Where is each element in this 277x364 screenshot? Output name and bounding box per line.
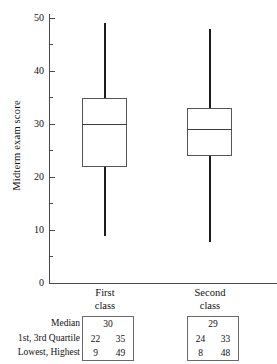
row-label-quartiles: 1st, 3rd Quartile (0, 331, 80, 346)
x-axis-label-first-class: First class (60, 287, 150, 312)
summary-first-lowest: 9 (89, 346, 103, 361)
summary-second-median-row: 29 (188, 317, 238, 332)
summary-second-q1: 24 (194, 332, 208, 347)
x-label-first-line2: class (60, 300, 150, 313)
boxplot-figure: Midterm exam score 50 40 30 20 10 0 (0, 0, 277, 364)
summary-second-q3: 33 (219, 332, 233, 347)
x-axis-label-second-class: Second class (165, 287, 255, 312)
summary-first-highest: 49 (114, 346, 128, 361)
y-tick-5 (50, 256, 53, 257)
median-line-first (82, 124, 127, 125)
summary-first-quartiles-row: 22 35 (83, 332, 133, 347)
summary-first-median-row: 30 (83, 317, 133, 332)
x-label-second-line1: Second (165, 287, 255, 300)
row-label-median: Median (0, 316, 80, 331)
y-tick-label-40: 40 (20, 66, 44, 76)
summary-first-extremes-row: 9 49 (83, 346, 133, 361)
median-line-second (187, 129, 232, 130)
y-tick-label-30: 30 (20, 119, 44, 129)
plot-area: Midterm exam score 50 40 30 20 10 0 (0, 0, 277, 300)
y-tick-label-20: 20 (20, 172, 44, 182)
y-tick-25 (50, 150, 53, 151)
box-first (82, 98, 127, 167)
y-tick-label-50: 50 (20, 13, 44, 23)
summary-first-q1: 22 (89, 332, 103, 347)
boxplot-second-class[interactable] (165, 0, 255, 300)
summary-table: Median 1st, 3rd Quartile Lowest, Highest… (0, 316, 277, 364)
box-second (187, 108, 232, 156)
y-tick-50 (50, 18, 55, 19)
y-tick-10 (50, 230, 55, 231)
y-axis-line (49, 14, 50, 284)
y-tick-0 (50, 283, 55, 284)
y-tick-label-0: 0 (20, 278, 44, 288)
summary-first-median: 30 (101, 317, 115, 332)
y-tick-35 (50, 97, 53, 98)
summary-second-quartiles-row: 24 33 (188, 332, 238, 347)
y-tick-15 (50, 203, 53, 204)
summary-second-highest: 48 (219, 346, 233, 361)
x-label-second-line2: class (165, 300, 255, 313)
y-tick-20 (50, 177, 55, 178)
row-label-extremes: Lowest, Highest (0, 345, 80, 360)
y-tick-45 (50, 44, 53, 45)
y-tick-30 (50, 124, 55, 125)
y-tick-label-10: 10 (20, 225, 44, 235)
summary-box-first-class: 30 22 35 9 49 (82, 316, 134, 361)
x-label-first-line1: First (60, 287, 150, 300)
y-tick-40 (50, 71, 55, 72)
summary-second-lowest: 8 (194, 346, 208, 361)
summary-row-labels: Median 1st, 3rd Quartile Lowest, Highest (0, 316, 80, 360)
y-axis-title: Midterm exam score (11, 66, 22, 226)
summary-first-q3: 35 (114, 332, 128, 347)
summary-box-second-class: 29 24 33 8 48 (187, 316, 239, 361)
summary-second-median: 29 (206, 317, 220, 332)
summary-second-extremes-row: 8 48 (188, 346, 238, 361)
boxplot-first-class[interactable] (60, 0, 150, 300)
